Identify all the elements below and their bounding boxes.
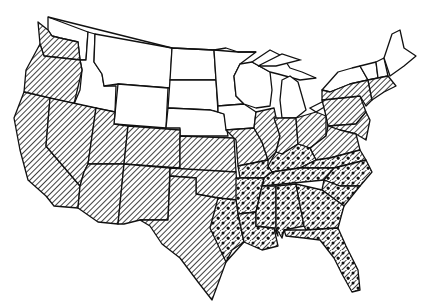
state-fl: [284, 228, 360, 292]
state-mi-lower: [280, 76, 306, 118]
state-co: [124, 126, 180, 168]
state-me: [384, 30, 416, 76]
state-sd: [168, 80, 218, 112]
us-map: [0, 0, 432, 301]
state-wy: [114, 84, 168, 128]
state-nd: [170, 48, 216, 80]
state-az: [78, 164, 124, 224]
state-ks: [180, 136, 236, 172]
state-mt: [94, 34, 172, 88]
state-nm: [118, 164, 170, 224]
state-ma-ct-ri: [368, 76, 396, 100]
